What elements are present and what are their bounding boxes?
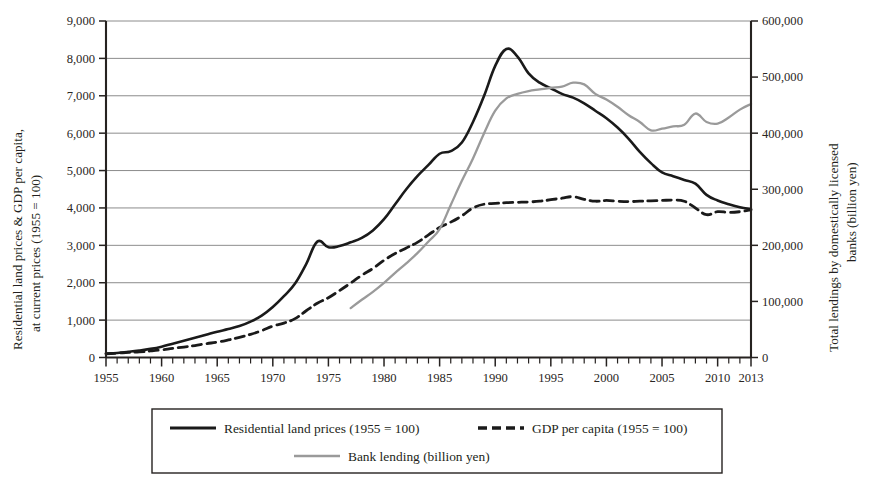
- line-chart: 01,0002,0003,0004,0005,0006,0007,0008,00…: [0, 0, 873, 488]
- left-axis-title-line1: Residential land prices & GDP per capita…: [10, 129, 25, 350]
- y-tick-label: 9,000: [67, 14, 95, 28]
- y2-tick-label: 500,000: [762, 70, 803, 84]
- x-tick-label: 1975: [316, 371, 341, 385]
- legend-label-gdp-per-capita: GDP per capita (1955 = 100): [532, 421, 687, 436]
- y2-tick-label: 400,000: [762, 127, 803, 141]
- x-tick-label: 1970: [260, 371, 285, 385]
- y-tick-label: 0: [89, 351, 95, 365]
- y2-tick-label: 200,000: [762, 239, 803, 253]
- chart-figure: 01,0002,0003,0004,0005,0006,0007,0008,00…: [0, 0, 873, 488]
- x-tick-label: 1965: [205, 371, 230, 385]
- left-axis-title-line2: at current prices (1955 = 100): [28, 175, 43, 332]
- legend-label-bank-lending: Bank lending (billion yen): [348, 449, 490, 464]
- y-tick-label: 6,000: [67, 127, 95, 141]
- x-tick-label: 1995: [538, 371, 563, 385]
- y-tick-label: 7,000: [67, 89, 95, 103]
- chart-background: [0, 0, 873, 488]
- x-tick-label: 2013: [738, 371, 763, 385]
- y2-tick-label: 300,000: [762, 183, 803, 197]
- legend-label-residential-land-prices: Residential land prices (1955 = 100): [224, 421, 419, 436]
- y2-tick-label: 0: [762, 351, 768, 365]
- y-tick-label: 1,000: [67, 314, 95, 328]
- x-tick-label: 1955: [93, 371, 118, 385]
- y-tick-label: 4,000: [67, 201, 95, 215]
- x-tick-label: 1960: [149, 371, 174, 385]
- y-tick-label: 3,000: [67, 239, 95, 253]
- y2-tick-label: 100,000: [762, 295, 803, 309]
- x-tick-label: 1990: [483, 371, 508, 385]
- y-tick-label: 5,000: [67, 164, 95, 178]
- right-axis-title-line2: banks (billion yen): [844, 162, 859, 262]
- x-tick-label: 1985: [427, 371, 452, 385]
- y-tick-label: 8,000: [67, 52, 95, 66]
- x-tick-label: 1980: [371, 371, 396, 385]
- x-tick-label: 2000: [594, 371, 619, 385]
- x-tick-label: 2005: [649, 371, 674, 385]
- x-tick-label: 2010: [705, 371, 730, 385]
- y2-tick-label: 600,000: [762, 14, 803, 28]
- right-axis-title-line1: Total lendings by domestically licensed: [826, 143, 841, 352]
- y-tick-label: 2,000: [67, 276, 95, 290]
